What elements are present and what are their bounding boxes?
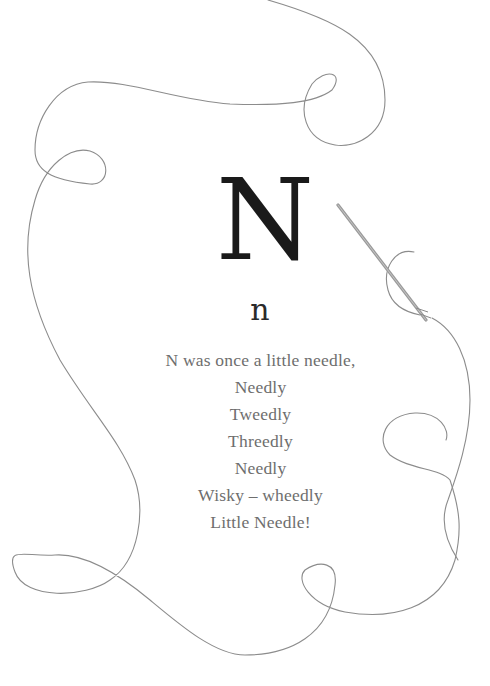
poem-line: Threedly [0,428,490,455]
poem: N was once a little needle, Needly Tweed… [0,347,490,536]
poem-line: N was once a little needle, [0,347,490,374]
capital-letter: N [0,160,490,280]
poem-line: Needly [0,455,490,482]
lowercase-letter: n [0,290,490,330]
poem-line: Needly [0,374,490,401]
poem-line: Tweedly [0,401,490,428]
thread-decoration [0,0,490,686]
poem-line: Wisky – wheedly [0,482,490,509]
poem-line: Little Needle! [0,509,490,536]
